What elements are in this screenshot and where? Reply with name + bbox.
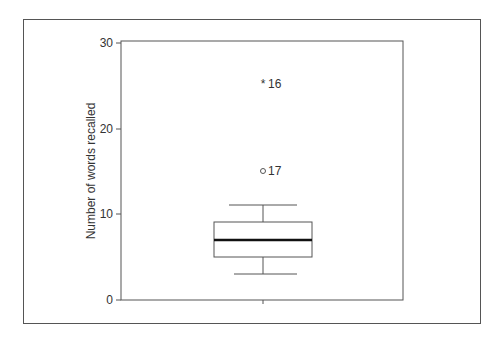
outlier-label: 17 <box>268 164 282 178</box>
outlier: 17 <box>261 164 282 178</box>
y-tick-0: 0 <box>106 293 113 307</box>
y-tick-20: 20 <box>100 122 114 136</box>
extreme-outlier: * 16 <box>261 77 282 91</box>
extreme-outlier-label: 16 <box>268 77 282 91</box>
box-plot: 0 10 20 30 Number of words recalled * 16… <box>0 0 504 344</box>
y-axis-title: Number of words recalled <box>84 103 98 240</box>
box-element <box>214 205 312 274</box>
circle-marker-icon <box>261 169 266 174</box>
y-tick-10: 10 <box>100 207 114 221</box>
y-axis: 0 10 20 30 <box>100 36 121 307</box>
star-marker-icon: * <box>261 77 266 91</box>
y-tick-30: 30 <box>100 36 114 50</box>
